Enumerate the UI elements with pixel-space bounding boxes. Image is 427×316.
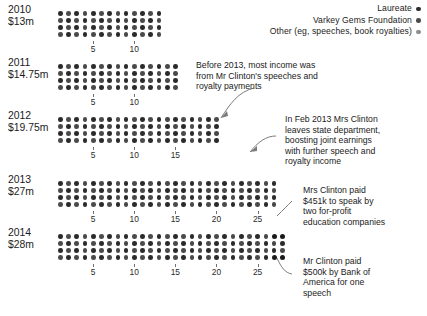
dot	[165, 124, 170, 129]
dot	[91, 32, 96, 37]
dot	[206, 202, 211, 207]
dot	[165, 71, 170, 76]
dot	[280, 241, 285, 246]
leader-arrow-1	[221, 111, 228, 118]
dot	[214, 195, 219, 200]
dot	[74, 234, 79, 239]
dot	[66, 255, 71, 260]
leader-line-3	[277, 201, 292, 216]
axis-tick-label: 10	[124, 98, 144, 107]
dot	[107, 64, 112, 69]
dot	[74, 25, 79, 30]
year-label-2014: 2014$28m	[8, 227, 34, 252]
dot	[66, 18, 71, 23]
dot	[206, 181, 211, 186]
dot	[91, 78, 96, 83]
annotation-line: with further speech and	[285, 146, 380, 157]
dot	[99, 78, 104, 83]
dot	[247, 202, 252, 207]
dot	[74, 18, 79, 23]
dot	[231, 202, 236, 207]
axis-tick-label: 20	[206, 215, 226, 224]
dot	[99, 138, 104, 143]
dot	[255, 181, 260, 186]
year-text: 2010	[8, 4, 34, 16]
dot	[264, 188, 269, 193]
dot	[157, 234, 162, 239]
dot	[124, 25, 129, 30]
dot	[247, 255, 252, 260]
dot	[148, 241, 153, 246]
dot	[190, 234, 195, 239]
dot	[74, 255, 79, 260]
dot	[231, 234, 236, 239]
dot	[124, 64, 129, 69]
dot	[173, 202, 178, 207]
dot	[148, 234, 153, 239]
dot	[264, 202, 269, 207]
dot	[116, 248, 121, 253]
annotation-line: education companies	[303, 217, 385, 228]
dot	[173, 138, 178, 143]
dot	[181, 117, 186, 122]
dot	[99, 255, 104, 260]
dot	[91, 234, 96, 239]
dot	[190, 181, 195, 186]
dot	[198, 188, 203, 193]
dot	[222, 181, 227, 186]
dot	[140, 241, 145, 246]
dot	[255, 195, 260, 200]
dot	[247, 241, 252, 246]
dot	[58, 32, 63, 37]
dot-highlight	[280, 234, 285, 239]
legend-dot-laureate	[416, 7, 421, 12]
dot	[116, 117, 121, 122]
dot	[132, 78, 137, 83]
dot-highlight	[272, 234, 277, 239]
dot	[140, 71, 145, 76]
dot	[255, 241, 260, 246]
dot	[157, 25, 162, 30]
dot	[107, 181, 112, 186]
dot	[140, 195, 145, 200]
dot	[99, 188, 104, 193]
dot	[83, 32, 88, 37]
dot	[181, 138, 186, 143]
dot	[206, 117, 211, 122]
dot	[157, 181, 162, 186]
dot	[116, 85, 121, 90]
dot	[140, 188, 145, 193]
dot	[58, 78, 63, 83]
dot	[140, 181, 145, 186]
dot	[74, 241, 79, 246]
dot	[91, 195, 96, 200]
dot	[58, 131, 63, 136]
dot	[91, 25, 96, 30]
dot	[181, 255, 186, 260]
dot	[132, 138, 137, 143]
dot	[198, 195, 203, 200]
dot	[124, 117, 129, 122]
legend-label-other: Other (eg, speeches, book royalties)	[270, 26, 412, 37]
dot	[148, 71, 153, 76]
dot	[148, 18, 153, 23]
dot	[222, 241, 227, 246]
dot	[107, 202, 112, 207]
dot	[74, 138, 79, 143]
dot	[173, 195, 178, 200]
dot	[66, 85, 71, 90]
dot	[58, 18, 63, 23]
dot	[165, 64, 170, 69]
dot	[107, 11, 112, 16]
dot	[83, 195, 88, 200]
dot	[66, 71, 71, 76]
annotation-line: In Feb 2013 Mrs Clinton	[285, 114, 380, 125]
dot	[74, 131, 79, 136]
dot	[181, 202, 186, 207]
dot	[222, 188, 227, 193]
dot	[107, 248, 112, 253]
dot	[239, 241, 244, 246]
dot	[91, 188, 96, 193]
dot	[264, 234, 269, 239]
dot	[83, 234, 88, 239]
